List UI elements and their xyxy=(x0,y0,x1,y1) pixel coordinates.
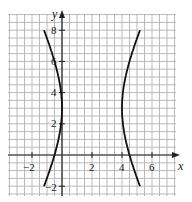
y-axis-label: y xyxy=(51,7,58,21)
tick-x-2: 2 xyxy=(89,161,95,173)
hyperbola-chart: x y −2 2 4 6 −2 2 4 6 8 xyxy=(0,0,192,202)
tick-x-4: 4 xyxy=(119,161,125,173)
x-axis-label: x xyxy=(177,159,184,173)
tick-y-4: 4 xyxy=(51,86,57,98)
tick-x-neg2: −2 xyxy=(23,161,35,173)
tick-y-2: 2 xyxy=(51,117,57,129)
tick-x-6: 6 xyxy=(149,161,155,173)
tick-y-neg2: −2 xyxy=(45,181,57,193)
y-axis-arrow-icon xyxy=(59,10,65,18)
x-axis-arrow-icon xyxy=(172,152,180,158)
tick-y-8: 8 xyxy=(51,24,57,36)
